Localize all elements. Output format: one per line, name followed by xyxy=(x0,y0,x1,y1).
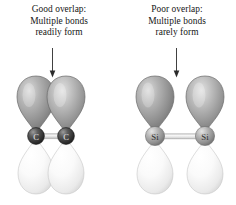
atom-silicon-right: Si xyxy=(195,126,214,145)
lobe-bottom-left xyxy=(137,140,173,194)
orbital-overlap-figure: Good overlap: Multiple bonds readily for… xyxy=(0,0,236,205)
lobe-bottom-left xyxy=(18,138,54,194)
atom-label-carbon-right: C xyxy=(63,132,69,142)
atom-carbon-right: C xyxy=(58,128,75,145)
silicon-top-lobes xyxy=(136,76,224,132)
lobe-bottom-right xyxy=(187,140,223,194)
atom-carbon-left: C xyxy=(28,128,45,145)
carbon-top-lobes xyxy=(17,76,85,133)
atom-silicon-left: Si xyxy=(145,126,164,145)
carbon-bottom-lobes xyxy=(18,138,84,194)
silicon-structure: Si Si xyxy=(136,76,224,194)
atom-label-silicon-left: Si xyxy=(151,132,159,142)
lobe-top-right xyxy=(186,76,224,132)
atom-label-carbon-left: C xyxy=(33,132,39,142)
atom-label-silicon-right: Si xyxy=(201,132,209,142)
silicon-bond xyxy=(162,134,198,139)
orbital-graphics: C C xyxy=(0,0,236,205)
lobe-top-right xyxy=(47,76,85,133)
carbon-structure: C C xyxy=(17,76,85,194)
silicon-bottom-lobes xyxy=(137,140,223,194)
down-arrow-silicon xyxy=(174,48,180,78)
lobe-bottom-right xyxy=(48,138,84,194)
down-arrow-carbon xyxy=(50,48,56,78)
lobe-top-left xyxy=(136,76,174,132)
